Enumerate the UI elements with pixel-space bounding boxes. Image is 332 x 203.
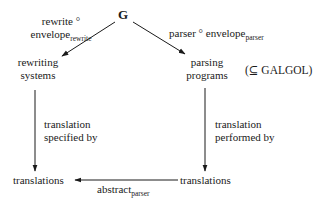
left-vertical-edge-label: translation specified by [44, 118, 97, 144]
right-edge-label: parser ° envelopeparser [169, 27, 264, 44]
bottom-edge-label: abstractparser [97, 183, 150, 200]
node-parsing-programs: parsing programs [182, 56, 232, 82]
left-edge-label-line1: rewrite ° [24, 15, 98, 28]
galgol-note: (⊆ GALGOL) [245, 64, 312, 77]
right-vertical-edge-label: translation performed by [215, 118, 275, 144]
node-rewriting-systems: rewriting systems [14, 56, 62, 82]
left-edge-label-line2: enveloperewrite [24, 28, 98, 45]
node-translations-right: translations [180, 174, 231, 187]
left-edge-label: rewrite ° enveloperewrite [24, 15, 98, 45]
node-translations-left: translations [13, 174, 64, 187]
node-g: G [118, 8, 128, 21]
